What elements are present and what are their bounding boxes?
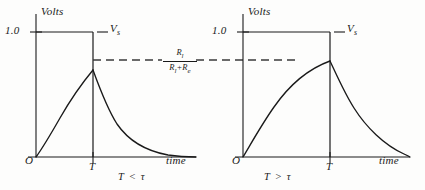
left-panel-caption: T < τ [118,171,146,182]
right-xtick-label-T: T [326,161,332,172]
right-x-axis-label: time [379,155,399,166]
panel-right [235,14,410,163]
right-panel-caption: T > τ [264,171,292,182]
level-numerator: Rl [163,48,197,62]
right-pulse-amplitude-sub: s [354,28,357,37]
steady-state-level-label: Rl Rl+Re [163,48,197,75]
level-num-sub: l [182,52,184,60]
left-curve-discharge [93,70,196,157]
left-x-axis-label: time [166,155,186,166]
left-curve-charge [36,70,93,157]
left-xtick-label-T: T [89,161,95,172]
left-y-axis-label: Volts [41,6,63,17]
right-ytick-label-one: 1.0 [212,25,226,36]
left-origin-label: O [25,155,33,166]
right-pulse-amplitude-label: Vs [347,23,357,37]
left-pulse-amplitude-sub: s [117,28,120,37]
level-denominator: Rl+Re [163,62,197,75]
left-pulse-amplitude-v: V [110,22,117,34]
right-origin-label: O [232,155,240,166]
right-curve-charge [243,61,330,157]
right-curve-discharge [330,61,410,157]
left-ytick-label-one: 1.0 [5,25,19,36]
level-den-b-sub: e [187,67,190,75]
left-pulse-amplitude-label: Vs [110,23,120,37]
right-y-axis-label: Volts [248,6,270,17]
figure-container: Volts 1.0 Vs O T time T < τ Rl Rl+Re Vol… [0,0,425,190]
right-pulse-amplitude-v: V [347,22,354,34]
